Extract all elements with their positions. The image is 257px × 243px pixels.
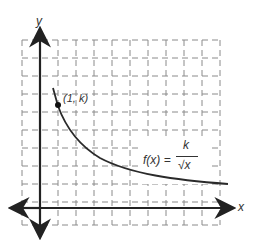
point-1-k xyxy=(55,102,61,108)
point-label: (1, k) xyxy=(63,92,88,104)
x-axis-label: x xyxy=(238,200,244,214)
function-lhs: f(x) = xyxy=(143,153,171,167)
fraction-bar xyxy=(176,156,198,157)
graph-canvas xyxy=(0,0,257,243)
function-denominator: √x xyxy=(178,158,191,172)
grid xyxy=(22,40,220,225)
function-numerator: k xyxy=(183,138,189,152)
y-axis-label: y xyxy=(36,14,42,28)
